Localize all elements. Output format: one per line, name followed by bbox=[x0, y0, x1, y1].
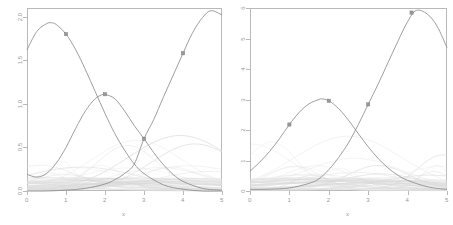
plot-curves-right bbox=[227, 0, 453, 225]
x-tick-mark bbox=[144, 191, 145, 195]
main-curve bbox=[250, 10, 447, 189]
x-tick-mark bbox=[183, 191, 184, 195]
x-tick-label: 3 bbox=[142, 197, 145, 203]
data-point-marker bbox=[327, 99, 330, 102]
x-tick-mark bbox=[289, 191, 290, 195]
y-tick-mark bbox=[246, 39, 250, 40]
x-tick-mark bbox=[105, 191, 106, 195]
x-tick-label: 2 bbox=[103, 197, 106, 203]
y-tick-label: 6 bbox=[240, 6, 246, 10]
y-tick-label: 1.0 bbox=[17, 98, 23, 109]
x-tick-mark bbox=[368, 191, 369, 195]
y-tick-mark bbox=[246, 69, 250, 70]
x-tick-label: 3 bbox=[366, 197, 369, 203]
x-tick-mark bbox=[222, 191, 223, 195]
data-point-marker bbox=[142, 137, 145, 140]
y-tick-label: 1.5 bbox=[17, 55, 23, 66]
data-point-marker bbox=[410, 11, 413, 14]
y-tick-label: 0.5 bbox=[17, 142, 23, 153]
y-tick-mark bbox=[23, 17, 27, 18]
data-point-marker bbox=[103, 93, 106, 96]
x-axis-title-left: x bbox=[122, 211, 125, 217]
x-tick-label: 5 bbox=[445, 197, 448, 203]
main-curve bbox=[27, 11, 222, 191]
x-axis-title-right: x bbox=[346, 211, 349, 217]
x-tick-mark bbox=[447, 191, 448, 195]
y-tick-label: 1 bbox=[240, 159, 246, 163]
y-tick-mark bbox=[23, 104, 27, 105]
x-tick-label: 2 bbox=[327, 197, 330, 203]
x-tick-mark bbox=[408, 191, 409, 195]
x-tick-label: 4 bbox=[181, 197, 184, 203]
y-tick-label: 0.0 bbox=[17, 186, 23, 197]
y-tick-mark bbox=[246, 100, 250, 101]
x-tick-label: 1 bbox=[287, 197, 290, 203]
data-point-marker bbox=[367, 103, 370, 106]
y-tick-mark bbox=[23, 147, 27, 148]
y-tick-label: 2.0 bbox=[17, 11, 23, 22]
chart-panel-left: 0123450.00.51.01.52.0 x bbox=[0, 0, 226, 225]
data-point-marker bbox=[181, 52, 184, 55]
x-tick-label: 5 bbox=[220, 197, 223, 203]
x-tick-label: 4 bbox=[406, 197, 409, 203]
y-tick-mark bbox=[23, 191, 27, 192]
y-tick-mark bbox=[246, 8, 250, 9]
y-tick-label: 2 bbox=[240, 128, 246, 132]
y-tick-label: 3 bbox=[240, 98, 246, 102]
x-tick-label: 0 bbox=[25, 197, 28, 203]
y-tick-label: 0 bbox=[240, 189, 246, 193]
x-tick-label: 0 bbox=[248, 197, 251, 203]
x-tick-mark bbox=[66, 191, 67, 195]
x-tick-label: 1 bbox=[64, 197, 67, 203]
y-tick-mark bbox=[246, 130, 250, 131]
data-point-marker bbox=[64, 33, 67, 36]
y-tick-label: 5 bbox=[240, 37, 246, 41]
y-tick-mark bbox=[246, 191, 250, 192]
y-tick-label: 4 bbox=[240, 67, 246, 71]
x-tick-mark bbox=[329, 191, 330, 195]
y-tick-mark bbox=[23, 60, 27, 61]
figure-canvas: 0123450.00.51.01.52.0 x 0123450123456 x bbox=[0, 0, 453, 225]
x-tick-mark bbox=[250, 191, 251, 195]
chart-panel-right: 0123450123456 x bbox=[227, 0, 453, 225]
plot-curves-left bbox=[0, 0, 226, 225]
data-point-marker bbox=[288, 123, 291, 126]
x-tick-mark bbox=[27, 191, 28, 195]
y-tick-mark bbox=[246, 161, 250, 162]
